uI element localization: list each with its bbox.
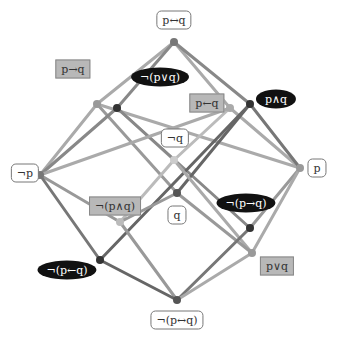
edge-nimp-bot [177, 228, 250, 300]
node-dot-p [296, 164, 304, 172]
node-label-or: p∨q [260, 257, 294, 276]
node-dot-rimpl [226, 104, 234, 112]
node-label-q: q [167, 206, 186, 225]
edge-and-p [250, 104, 300, 168]
node-dot-nimp [246, 224, 254, 232]
node-label-impl: p→q [55, 60, 90, 79]
node-label-bot: ¬(p↔q) [150, 311, 203, 330]
node-dot-impl [93, 100, 101, 108]
node-dot-notq [170, 156, 178, 164]
node-label-top: p↔q [156, 11, 191, 30]
edge-nand-bot [120, 222, 177, 300]
node-label-rimpl: p←q [189, 94, 224, 113]
node-label-nand: ¬(p∧q) [89, 197, 141, 216]
node-label-and: p∧q [256, 90, 296, 109]
node-dot-top [170, 38, 178, 46]
edge-nrimp-bot [100, 260, 177, 300]
node-label-nrimp: ¬(p←q) [37, 261, 96, 280]
node-dot-q [173, 189, 181, 197]
hasse-diagram [0, 0, 341, 340]
node-dot-nand [116, 218, 124, 226]
node-dot-nrimp [96, 256, 104, 264]
node-label-notq: ¬q [161, 129, 189, 148]
edge-nor-notp [40, 108, 117, 175]
node-label-notp: ¬p [11, 164, 39, 183]
edge-notp-nrimp [40, 175, 100, 260]
node-label-p: p [307, 159, 326, 178]
node-label-nor: ¬(p∨q) [131, 68, 189, 87]
node-label-nimp: ¬(p→q) [216, 194, 275, 213]
edge-or-bot [177, 253, 252, 300]
node-dot-and [246, 100, 254, 108]
node-dot-bot [173, 296, 181, 304]
node-dot-or [248, 249, 256, 257]
node-dot-nor [113, 104, 121, 112]
